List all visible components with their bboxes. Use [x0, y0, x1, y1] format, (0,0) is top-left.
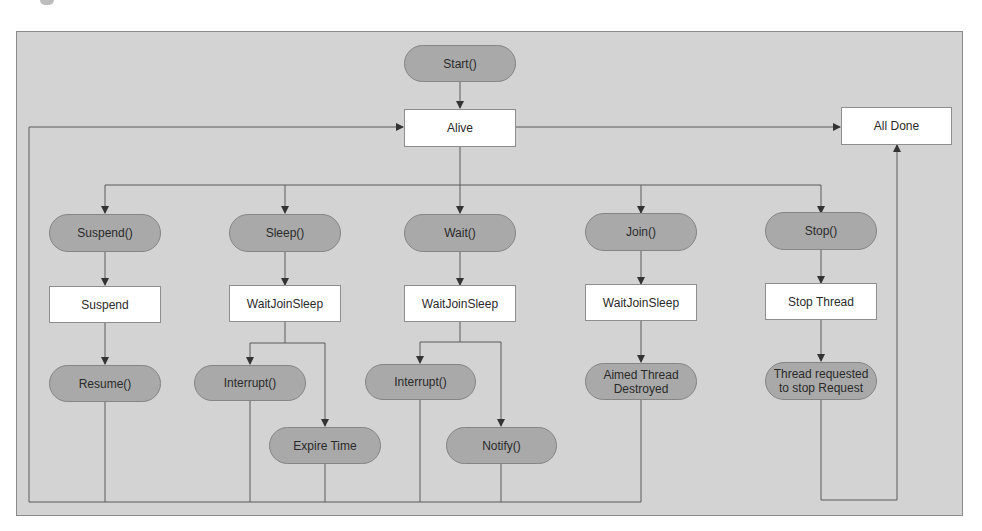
- expire-time-node: Expire Time: [269, 427, 381, 464]
- all-done-label: All Done: [874, 119, 919, 133]
- suspend-call-label: Suspend(): [77, 226, 132, 240]
- start-node: Start(): [404, 45, 516, 82]
- alive-node: Alive: [404, 109, 516, 147]
- suspend-call-node: Suspend(): [49, 214, 161, 252]
- stop-state-node: Stop Thread: [765, 283, 877, 320]
- aimed-destroyed-label-1: Aimed Thread: [603, 368, 678, 382]
- join-call-label: Join(): [626, 225, 656, 239]
- join-state-label: WaitJoinSleep: [603, 296, 679, 310]
- sleep-interrupt-node: Interrupt(): [194, 365, 306, 401]
- stop-call-label: Stop(): [805, 224, 838, 238]
- sleep-state-node: WaitJoinSleep: [229, 285, 341, 322]
- aimed-destroyed-node: Aimed Thread Destroyed: [585, 363, 697, 400]
- wait-interrupt-node: Interrupt(): [365, 364, 476, 400]
- stop-request-label-1: Thread requested: [774, 367, 869, 381]
- wait-state-node: WaitJoinSleep: [404, 285, 516, 322]
- suspend-state-label: Suspend: [81, 298, 128, 312]
- start-label: Start(): [443, 57, 476, 71]
- wait-state-label: WaitJoinSleep: [422, 297, 498, 311]
- sleep-call-node: Sleep(): [229, 214, 341, 252]
- wait-call-label: Wait(): [444, 226, 476, 240]
- stop-state-label: Stop Thread: [788, 295, 854, 309]
- wait-call-node: Wait(): [404, 214, 516, 252]
- stop-request-label-2: to stop Request: [779, 381, 863, 395]
- expire-time-label: Expire Time: [293, 439, 356, 453]
- aimed-destroyed-label-2: Destroyed: [614, 382, 669, 396]
- join-state-node: WaitJoinSleep: [585, 284, 697, 321]
- alive-label: Alive: [447, 121, 473, 135]
- resume-label: Resume(): [79, 377, 132, 391]
- resume-node: Resume(): [49, 365, 161, 402]
- sleep-call-label: Sleep(): [266, 226, 305, 240]
- sleep-interrupt-label: Interrupt(): [224, 376, 277, 390]
- wait-interrupt-label: Interrupt(): [394, 375, 447, 389]
- suspend-state-node: Suspend: [49, 286, 161, 323]
- stop-request-node: Thread requested to stop Request: [765, 362, 877, 400]
- notify-label: Notify(): [482, 439, 521, 453]
- stop-call-node: Stop(): [765, 212, 877, 250]
- notify-node: Notify(): [446, 427, 557, 464]
- sleep-state-label: WaitJoinSleep: [247, 297, 323, 311]
- join-call-node: Join(): [585, 213, 697, 251]
- all-done-node: All Done: [841, 107, 952, 145]
